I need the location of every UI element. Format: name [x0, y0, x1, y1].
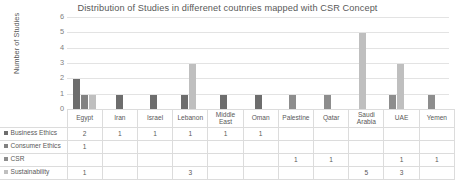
table-cell — [208, 167, 243, 180]
table-cell — [314, 128, 349, 141]
y-tick-label: 6 — [50, 13, 64, 20]
table-cell — [137, 154, 172, 167]
bar — [389, 95, 396, 109]
bar-group — [171, 17, 206, 109]
bar — [359, 33, 366, 109]
y-tick-label: 3 — [50, 59, 64, 66]
table-column-header: Yemen — [419, 110, 454, 128]
table-column-header: UAE — [384, 110, 419, 128]
table-cell — [349, 141, 384, 154]
table-cell — [278, 141, 313, 154]
legend-label: CSR — [11, 155, 25, 162]
table-cell: 1 — [419, 154, 454, 167]
table-cell — [419, 128, 454, 141]
bars-layer — [67, 17, 449, 109]
legend-header-blank — [0, 110, 67, 128]
table-cell — [243, 141, 278, 154]
bar-group — [275, 17, 310, 109]
table-cell: 3 — [173, 167, 208, 180]
plot-grid-area — [67, 17, 449, 109]
chart-data-table: EgyptIranIsraelLebanonMiddle EastOmanPal… — [0, 109, 455, 180]
table-cell — [314, 141, 349, 154]
legend-swatch-icon — [4, 144, 8, 148]
y-tick-label: 1 — [50, 90, 64, 97]
legend-swatch-icon — [4, 131, 8, 135]
bar — [220, 95, 227, 109]
legend-entry: Consumer Ethics — [0, 141, 67, 154]
legend-label: Business Ethics — [11, 129, 58, 136]
chart-container: Distribution of Studies in differenet co… — [0, 0, 455, 189]
bar-group — [102, 17, 137, 109]
table-cell — [384, 128, 419, 141]
legend-label: Consumer Ethics — [11, 142, 61, 149]
bar — [189, 64, 196, 109]
bar-group — [206, 17, 241, 109]
table-cell — [137, 167, 172, 180]
table-cell: 1 — [384, 154, 419, 167]
table-cell — [314, 167, 349, 180]
table-column-header: Palestine — [278, 110, 313, 128]
table-cell — [384, 141, 419, 154]
legend-swatch-icon — [4, 170, 8, 174]
table-column-header: Iran — [102, 110, 137, 128]
table-column-header: Oman — [243, 110, 278, 128]
table-row: Consumer Ethics1 — [0, 141, 455, 154]
table-header-row: EgyptIranIsraelLebanonMiddle EastOmanPal… — [0, 110, 455, 128]
table-column-header: Egypt — [67, 110, 102, 128]
y-axis-label: Number of Studies — [12, 7, 21, 81]
table-cell: 1 — [278, 154, 313, 167]
legend-entry: Sustainability — [0, 167, 67, 180]
bar-group — [345, 17, 380, 109]
legend-entry: Business Ethics — [0, 128, 67, 141]
table-cell — [349, 128, 384, 141]
bar — [397, 64, 404, 109]
bar — [181, 95, 188, 109]
plot-region: Number of Studies 0123456 — [0, 17, 455, 109]
y-tick-label: 2 — [50, 75, 64, 82]
table-column-header: Saudi Arabia — [349, 110, 384, 128]
table-cell — [243, 167, 278, 180]
bar — [289, 95, 296, 109]
table-cell: 1 — [67, 141, 102, 154]
table-column-header: Qatar — [314, 110, 349, 128]
bar — [116, 95, 123, 109]
table-cell — [137, 141, 172, 154]
legend-entry: CSR — [0, 154, 67, 167]
chart-title: Distribution of Studies in differenet co… — [0, 0, 455, 13]
table-cell — [278, 167, 313, 180]
bar-group — [380, 17, 415, 109]
bar-group — [136, 17, 171, 109]
bar — [73, 79, 80, 109]
bar-group — [414, 17, 449, 109]
table-cell — [102, 154, 137, 167]
table-cell — [419, 141, 454, 154]
table-cell: 1 — [314, 154, 349, 167]
table-row: Sustainability1353 — [0, 167, 455, 180]
y-tick-label: 5 — [50, 29, 64, 36]
table-column-header: Israel — [137, 110, 172, 128]
bar — [428, 95, 435, 109]
table-cell — [102, 141, 137, 154]
table-cell — [208, 154, 243, 167]
table-cell — [67, 154, 102, 167]
table-cell: 5 — [349, 167, 384, 180]
table-cell — [278, 128, 313, 141]
legend-swatch-icon — [4, 157, 8, 161]
table-cell — [208, 141, 243, 154]
table-column-header: Lebanon — [173, 110, 208, 128]
table-cell — [173, 154, 208, 167]
table-cell: 1 — [243, 128, 278, 141]
table-cell: 1 — [173, 128, 208, 141]
table-cell: 1 — [208, 128, 243, 141]
bar — [81, 95, 88, 109]
table-cell: 2 — [67, 128, 102, 141]
table-cell: 3 — [384, 167, 419, 180]
bar-group — [67, 17, 102, 109]
table-cell — [349, 154, 384, 167]
table-cell — [419, 167, 454, 180]
bar-group — [241, 17, 276, 109]
y-tick-label: 4 — [50, 44, 64, 51]
legend-label: Sustainability — [11, 168, 50, 175]
bar — [255, 95, 262, 109]
table-row: CSR1111 — [0, 154, 455, 167]
